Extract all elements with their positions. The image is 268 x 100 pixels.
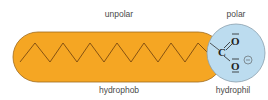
- unpolar-label: unpolar: [105, 9, 133, 19]
- hydrophil-label: hydrophil: [216, 85, 251, 95]
- oxygen-atom-top: O: [231, 35, 240, 47]
- hydrophilic-head: [207, 24, 265, 82]
- hydrophob-label: hydrophob: [99, 85, 139, 95]
- carbon-atom: C: [218, 46, 226, 58]
- polar-label: polar: [227, 9, 246, 19]
- oxygen-atom-bottom: O: [231, 60, 240, 72]
- hydrophobic-tail: [13, 32, 223, 82]
